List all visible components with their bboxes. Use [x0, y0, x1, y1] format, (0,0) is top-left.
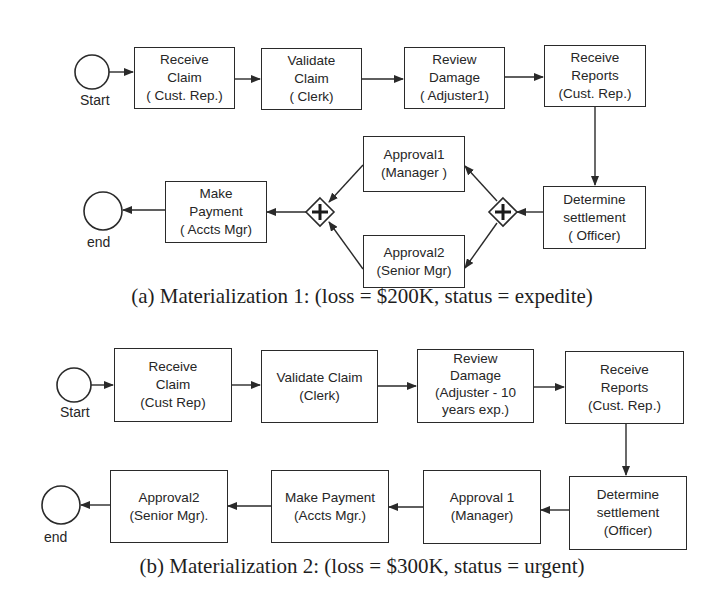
- task-role: (Manager ): [381, 164, 447, 182]
- task-approval2-a[interactable]: Approval2 (Senior Mgr): [363, 235, 465, 288]
- task-title: Receive: [160, 51, 209, 69]
- task-title: Damage: [429, 69, 480, 87]
- task-receive-reports-a[interactable]: Receive Reports (Cust. Rep.): [544, 45, 646, 107]
- end-label-b: end: [44, 529, 67, 545]
- task-role: (Cust. Rep.): [588, 397, 661, 415]
- task-receive-reports-b[interactable]: Receive Reports (Cust. Rep.): [565, 351, 684, 424]
- task-title: Claim: [294, 70, 329, 88]
- task-determine-settlement-b[interactable]: Determine settlement (Officer): [569, 476, 687, 550]
- task-role: (Cust. Rep.): [559, 85, 632, 103]
- caption-a: (a) Materialization 1: (loss = $200K, st…: [0, 284, 724, 309]
- task-role: (Accts Mgr.): [294, 507, 366, 525]
- task-title: settlement: [563, 209, 625, 227]
- task-validate-claim-a[interactable]: Validate Claim ( Clerk): [261, 48, 362, 110]
- task-approval2-b[interactable]: Approval2 (Senior Mgr).: [110, 470, 228, 543]
- task-approval1-a[interactable]: Approval1 (Manager ): [363, 136, 465, 192]
- task-title: Approval2: [139, 489, 200, 507]
- task-role: (Senior Mgr).: [130, 507, 209, 525]
- task-title: Claim: [156, 376, 191, 394]
- task-title: Approval1: [384, 146, 445, 164]
- end-label-a: end: [87, 234, 110, 250]
- task-title: Determine: [563, 191, 625, 209]
- task-title: Review: [432, 51, 476, 69]
- task-title: Reports: [601, 379, 648, 397]
- task-role: (Adjuster - 10: [435, 384, 516, 401]
- task-role: (Senior Mgr): [376, 262, 451, 280]
- task-make-payment-a[interactable]: Make Payment ( Accts Mgr): [165, 181, 267, 243]
- caption-b: (b) Materialization 2: (loss = $300K, st…: [0, 554, 724, 579]
- task-title: Determine: [597, 486, 659, 504]
- task-role: ( Clerk): [289, 88, 333, 106]
- task-approval1-b[interactable]: Approval 1 (Manager): [423, 470, 541, 544]
- task-role: (Cust Rep): [140, 394, 205, 412]
- task-title: Payment: [189, 203, 242, 221]
- diagram-canvas: Start end Receive Claim ( Cust. Rep.) Va…: [0, 0, 724, 613]
- task-role: ( Adjuster1): [420, 87, 489, 105]
- parallel-gateway-split-a: [489, 198, 517, 226]
- task-review-damage-b[interactable]: Review Damage (Adjuster - 10 years exp.): [417, 349, 534, 423]
- task-title: Approval 1: [450, 489, 515, 507]
- task-validate-claim-b[interactable]: Validate Claim (Clerk): [261, 350, 378, 423]
- task-title: Approval2: [384, 244, 445, 262]
- task-title: Claim: [167, 69, 202, 87]
- task-make-payment-b[interactable]: Make Payment (Accts Mgr.): [271, 470, 389, 543]
- start-label-a: Start: [80, 92, 110, 108]
- task-role: ( Accts Mgr): [180, 221, 252, 239]
- task-title: Review: [453, 350, 497, 367]
- parallel-gateway-join-a: [306, 198, 334, 226]
- task-role: (Manager): [451, 507, 513, 525]
- task-receive-claim-b[interactable]: Receive Claim (Cust Rep): [114, 348, 232, 422]
- start-event-a: [75, 55, 109, 89]
- task-title: Make Payment: [285, 489, 375, 507]
- task-title: Receive: [600, 361, 649, 379]
- task-determine-settlement-a[interactable]: Determine settlement ( Officer): [543, 186, 646, 249]
- start-label-b: Start: [60, 404, 90, 420]
- task-role: (Officer): [604, 522, 653, 540]
- task-title: Damage: [450, 367, 501, 384]
- task-role: ( Officer): [568, 227, 620, 245]
- task-title: Receive: [571, 49, 620, 67]
- end-event-a: [84, 192, 122, 230]
- task-review-damage-a[interactable]: Review Damage ( Adjuster1): [404, 47, 505, 109]
- task-role: ( Cust. Rep.): [146, 87, 223, 105]
- task-title: Reports: [571, 67, 618, 85]
- task-receive-claim-a[interactable]: Receive Claim ( Cust. Rep.): [134, 47, 235, 109]
- task-role: years exp.): [442, 401, 509, 418]
- task-title: Validate Claim: [276, 369, 362, 387]
- start-event-b: [57, 368, 91, 402]
- end-event-b: [42, 486, 80, 524]
- task-title: Receive: [149, 358, 198, 376]
- task-role: (Clerk): [299, 387, 340, 405]
- task-title: settlement: [597, 504, 659, 522]
- task-title: Make: [199, 185, 232, 203]
- task-title: Validate: [288, 52, 336, 70]
